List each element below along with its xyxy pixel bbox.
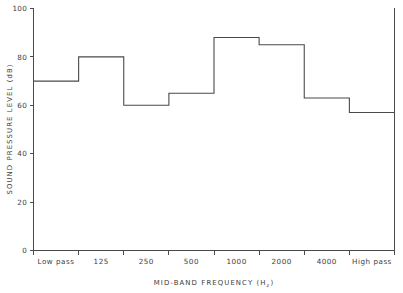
sound-pressure-level-step-chart: 100 80 60 40 20 0 Low pass 125 250 500 1… <box>0 0 403 293</box>
x-tick-label-high-pass: High pass <box>352 257 392 266</box>
y-tick-label-80: 80 <box>17 53 27 62</box>
x-axis-ticks <box>34 251 395 255</box>
y-axis-tick-labels: 100 80 60 40 20 0 <box>13 4 28 255</box>
x-tick-label-low-pass: Low pass <box>38 257 75 266</box>
x-axis-tick-labels: Low pass 125 250 500 1000 2000 4000 High… <box>38 257 392 266</box>
y-tick-label-100: 100 <box>13 4 28 13</box>
y-axis-title-text: SOUND PRESSURE LEVEL (dB) <box>6 63 14 194</box>
x-tick-label-1000: 1000 <box>226 257 246 266</box>
y-axis-ticks <box>30 9 34 251</box>
chart-container: 100 80 60 40 20 0 Low pass 125 250 500 1… <box>0 0 403 293</box>
x-axis-title: MID-BAND FREQUENCY (Hz) <box>154 279 274 288</box>
y-axis-title: SOUND PRESSURE LEVEL (dB) <box>6 63 14 194</box>
x-axis-title-main: MID-BAND FREQUENCY (H <box>154 279 267 287</box>
x-tick-label-500: 500 <box>184 257 199 266</box>
step-data-series <box>34 38 395 113</box>
x-axis-title-close: ) <box>270 279 274 287</box>
x-tick-label-250: 250 <box>139 257 154 266</box>
y-tick-label-20: 20 <box>17 198 27 207</box>
y-tick-label-60: 60 <box>17 101 27 110</box>
y-tick-label-40: 40 <box>17 149 27 158</box>
y-tick-label-0: 0 <box>22 246 27 255</box>
svg-text:MID-BAND FREQUENCY (Hz): MID-BAND FREQUENCY (Hz) <box>154 279 274 288</box>
x-tick-label-125: 125 <box>94 257 109 266</box>
x-tick-label-2000: 2000 <box>272 257 292 266</box>
x-tick-label-4000: 4000 <box>317 257 337 266</box>
